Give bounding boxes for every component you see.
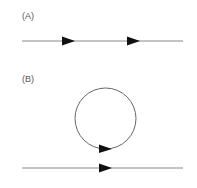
panel-b-loop [75,88,136,149]
feynman-diagram [0,0,197,188]
panel-b-line-arrow-icon [99,164,112,173]
panel-b [22,88,183,173]
panel-a [22,37,183,46]
panel-a-arrow-1-icon [62,37,75,46]
panel-a-arrow-2-icon [127,37,140,46]
panel-b-loop-arrow-icon [99,145,112,154]
